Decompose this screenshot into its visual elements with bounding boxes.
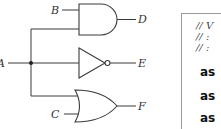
code-comment-1: // V	[196, 20, 213, 31]
code-comment-2: // :	[196, 31, 209, 42]
or-gate	[75, 90, 117, 122]
and-gate	[79, 4, 117, 35]
label-f: F	[137, 100, 146, 113]
code-line-3: as	[200, 111, 215, 125]
code-line-1: as	[200, 65, 215, 79]
label-a: A	[0, 57, 5, 70]
label-c: C	[51, 108, 60, 121]
junction-dot	[29, 61, 33, 65]
code-comment-3: // :	[196, 42, 209, 53]
code-line-2: as	[200, 89, 215, 103]
label-b: B	[50, 4, 59, 17]
not-gate	[79, 48, 105, 78]
label-e: E	[137, 57, 146, 70]
code-panel: // V // : // : as as as	[181, 13, 221, 129]
not-bubble	[105, 61, 110, 66]
label-d: D	[137, 13, 147, 26]
logic-circuit-diagram: A B C D E F	[0, 0, 181, 129]
